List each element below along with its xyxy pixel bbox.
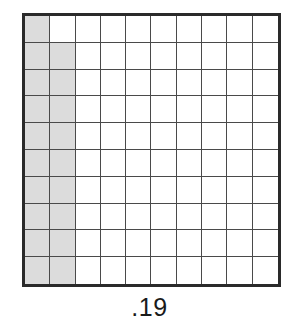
grid-cell: [177, 123, 202, 150]
grid-cell: [25, 123, 50, 150]
grid-cell: [126, 43, 151, 70]
grid-cell: [253, 230, 278, 257]
grid-cell: [227, 177, 252, 204]
grid-cell: [177, 16, 202, 43]
grid-cell: [177, 204, 202, 231]
grid-cell: [25, 230, 50, 257]
grid-cell: [202, 123, 227, 150]
grid-cell: [202, 70, 227, 97]
grid-cell: [253, 96, 278, 123]
grid-cell: [202, 204, 227, 231]
grid-cell: [202, 43, 227, 70]
grid-cell: [50, 96, 75, 123]
grid-cell: [177, 177, 202, 204]
grid-cell: [101, 70, 126, 97]
grid-cell: [50, 177, 75, 204]
grid-cell: [25, 204, 50, 231]
grid-cell: [227, 70, 252, 97]
grid-cell: [101, 16, 126, 43]
grid-cell: [202, 257, 227, 284]
grid-cell: [151, 96, 176, 123]
grid-cell: [76, 177, 101, 204]
grid-cell: [253, 177, 278, 204]
grid-cell: [177, 96, 202, 123]
grid-cell: [151, 150, 176, 177]
grid-cell: [101, 123, 126, 150]
grid-cell: [101, 257, 126, 284]
grid-cell: [76, 16, 101, 43]
grid-cell: [177, 43, 202, 70]
grid-cell: [202, 150, 227, 177]
grid-cell: [101, 43, 126, 70]
grid-cell: [227, 96, 252, 123]
grid-cell: [101, 177, 126, 204]
grid-cell: [126, 257, 151, 284]
grid-cell: [151, 70, 176, 97]
decimal-grid-figure: .19: [0, 0, 299, 331]
grid-cell: [126, 230, 151, 257]
grid-cell: [76, 257, 101, 284]
grid-cell: [101, 204, 126, 231]
grid-cell: [50, 230, 75, 257]
grid-cell: [253, 204, 278, 231]
grid-cell: [253, 257, 278, 284]
grid-cell: [25, 177, 50, 204]
grid-cell: [202, 177, 227, 204]
grid-cell: [151, 123, 176, 150]
grid-cell: [50, 70, 75, 97]
grid-cell: [76, 70, 101, 97]
grid-cell: [253, 16, 278, 43]
grid-cell: [126, 204, 151, 231]
grid-cell: [76, 123, 101, 150]
grid-cell: [25, 150, 50, 177]
grid-cell: [101, 150, 126, 177]
grid-cell: [126, 150, 151, 177]
grid-cell: [126, 70, 151, 97]
grid-cell: [50, 123, 75, 150]
grid-cell: [76, 96, 101, 123]
grid-cell: [50, 150, 75, 177]
grid-cell: [126, 96, 151, 123]
grid-cell: [227, 150, 252, 177]
grid-cell: [227, 43, 252, 70]
grid-cell: [151, 177, 176, 204]
grid-cell: [50, 204, 75, 231]
grid-caption: .19: [0, 292, 299, 322]
grid-cell: [227, 123, 252, 150]
grid-cell: [126, 123, 151, 150]
grid-cell: [25, 96, 50, 123]
grid-cell: [76, 230, 101, 257]
grid-cell: [76, 204, 101, 231]
grid-cell: [151, 257, 176, 284]
grid-cell: [25, 43, 50, 70]
grid-cell: [227, 16, 252, 43]
grid-cell: [253, 70, 278, 97]
grid-cell: [202, 96, 227, 123]
grid-cell: [202, 230, 227, 257]
grid-cell: [76, 43, 101, 70]
grid-cell: [227, 230, 252, 257]
grid-cell: [126, 16, 151, 43]
grid-cell: [50, 16, 75, 43]
grid-cell: [151, 204, 176, 231]
grid-cell: [177, 230, 202, 257]
grid-cell: [101, 96, 126, 123]
grid-cell: [177, 150, 202, 177]
grid-cell: [50, 257, 75, 284]
grid-cell: [227, 257, 252, 284]
grid-cell: [177, 70, 202, 97]
grid-cell: [177, 257, 202, 284]
grid-cell: [25, 70, 50, 97]
grid-cell: [25, 257, 50, 284]
grid-cell: [227, 204, 252, 231]
grid-cell: [50, 43, 75, 70]
hundredths-grid: [22, 13, 281, 287]
grid-cell: [253, 150, 278, 177]
grid-cell: [151, 43, 176, 70]
grid-cell: [151, 230, 176, 257]
grid-cell: [101, 230, 126, 257]
grid-cell: [76, 150, 101, 177]
grid-cell: [151, 16, 176, 43]
grid-cell: [253, 43, 278, 70]
grid-cell: [253, 123, 278, 150]
